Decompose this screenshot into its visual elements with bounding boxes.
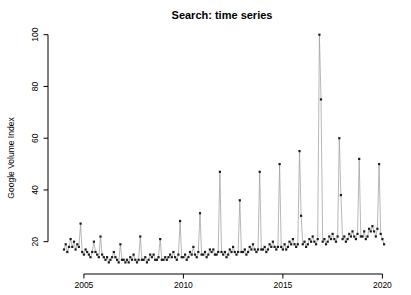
data-point bbox=[351, 230, 353, 232]
data-point bbox=[239, 199, 241, 201]
data-point bbox=[320, 98, 322, 100]
data-point bbox=[139, 235, 141, 237]
data-point bbox=[114, 256, 116, 258]
data-point bbox=[68, 246, 70, 248]
data-point bbox=[376, 228, 378, 230]
data-point bbox=[101, 254, 103, 256]
data-point bbox=[250, 248, 252, 250]
data-point bbox=[199, 212, 201, 214]
data-point bbox=[292, 238, 294, 240]
data-point bbox=[300, 215, 302, 217]
data-point bbox=[335, 241, 337, 243]
data-point bbox=[280, 246, 282, 248]
data-point bbox=[151, 256, 153, 258]
data-point bbox=[244, 248, 246, 250]
data-point bbox=[365, 238, 367, 240]
x-tick-label: 2010 bbox=[174, 280, 193, 290]
data-point bbox=[156, 259, 158, 261]
data-point bbox=[224, 251, 226, 253]
data-point bbox=[330, 238, 332, 240]
data-point bbox=[348, 233, 350, 235]
data-point bbox=[187, 256, 189, 258]
data-point bbox=[264, 246, 266, 248]
data-point bbox=[174, 256, 176, 258]
data-point bbox=[358, 158, 360, 160]
data-point bbox=[381, 238, 383, 240]
data-point bbox=[274, 246, 276, 248]
data-point bbox=[73, 241, 75, 243]
data-point bbox=[80, 223, 82, 225]
data-point bbox=[89, 256, 91, 258]
data-point bbox=[279, 163, 281, 165]
y-tick-label: 80 bbox=[30, 81, 40, 91]
y-tick-label: 100 bbox=[30, 27, 40, 41]
data-point bbox=[134, 259, 136, 261]
y-axis-title: Google Volume Index bbox=[6, 117, 16, 199]
data-point bbox=[237, 251, 239, 253]
data-point bbox=[197, 251, 199, 253]
data-point bbox=[76, 243, 78, 245]
data-point bbox=[111, 256, 113, 258]
data-point bbox=[118, 261, 120, 263]
data-point bbox=[119, 243, 121, 245]
data-point bbox=[136, 261, 138, 263]
series-points bbox=[63, 34, 385, 264]
data-point bbox=[91, 251, 93, 253]
x-tick-label: 2015 bbox=[273, 280, 292, 290]
data-point bbox=[230, 251, 232, 253]
data-point bbox=[370, 230, 372, 232]
data-point bbox=[83, 254, 85, 256]
data-point bbox=[113, 251, 115, 253]
data-point bbox=[380, 233, 382, 235]
x-tick-label: 2020 bbox=[373, 280, 392, 290]
data-point bbox=[202, 254, 204, 256]
data-point bbox=[98, 256, 100, 258]
data-point bbox=[159, 238, 161, 240]
data-point bbox=[186, 259, 188, 261]
data-point bbox=[196, 256, 198, 258]
data-point bbox=[217, 251, 219, 253]
data-point bbox=[350, 235, 352, 237]
data-point bbox=[366, 235, 368, 237]
data-point bbox=[116, 259, 118, 261]
data-point bbox=[179, 220, 181, 222]
data-point bbox=[63, 248, 65, 250]
data-point bbox=[302, 243, 304, 245]
data-point bbox=[303, 241, 305, 243]
data-point bbox=[375, 235, 377, 237]
data-point bbox=[373, 230, 375, 232]
data-point bbox=[315, 243, 317, 245]
data-point bbox=[184, 254, 186, 256]
data-point bbox=[204, 251, 206, 253]
data-point bbox=[191, 254, 193, 256]
data-point bbox=[340, 194, 342, 196]
data-point bbox=[216, 254, 218, 256]
data-point bbox=[342, 238, 344, 240]
data-point bbox=[85, 248, 87, 250]
data-point bbox=[295, 246, 297, 248]
data-point bbox=[371, 225, 373, 227]
data-point bbox=[249, 246, 251, 248]
data-point bbox=[322, 241, 324, 243]
data-point bbox=[328, 235, 330, 237]
x-tick-label: 2005 bbox=[74, 280, 93, 290]
data-point bbox=[146, 261, 148, 263]
data-point bbox=[323, 238, 325, 240]
data-point bbox=[378, 163, 380, 165]
data-point bbox=[298, 150, 300, 152]
data-point bbox=[128, 261, 130, 263]
data-point bbox=[285, 248, 287, 250]
data-point bbox=[94, 251, 96, 253]
data-point bbox=[318, 34, 320, 36]
data-point bbox=[307, 243, 309, 245]
data-point bbox=[88, 254, 90, 256]
data-point bbox=[361, 235, 363, 237]
data-point bbox=[347, 238, 349, 240]
data-point bbox=[138, 259, 140, 261]
data-point bbox=[209, 248, 211, 250]
data-point bbox=[126, 259, 128, 261]
data-point bbox=[123, 259, 125, 261]
data-point bbox=[254, 248, 256, 250]
data-point bbox=[337, 235, 339, 237]
y-tick-label: 40 bbox=[30, 185, 40, 195]
